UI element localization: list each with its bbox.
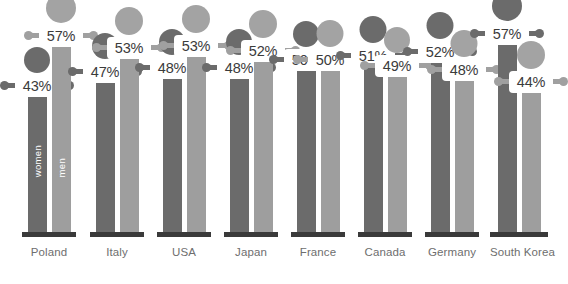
bar-women[interactable]: 48%: [230, 68, 249, 232]
bar-column: [522, 92, 541, 232]
bar-column: [96, 82, 115, 232]
group-baseline: [224, 232, 278, 237]
bar-column: [364, 66, 383, 232]
hand-left-dot: [92, 43, 101, 52]
value-callout: 44%: [509, 71, 553, 93]
bar-men[interactable]: 48%: [455, 70, 474, 232]
bar-column: [455, 80, 474, 232]
hand-left-dot: [226, 46, 235, 55]
head-circle: [360, 16, 387, 43]
bar-column: [52, 46, 71, 232]
bar-women[interactable]: 57%: [498, 34, 517, 232]
hand-left-dot: [360, 61, 369, 70]
bar-column: [187, 56, 206, 232]
group-baseline: [157, 232, 211, 237]
country-label: Canada: [358, 246, 412, 258]
country-label: Japan: [224, 246, 278, 258]
hand-left-dot: [68, 67, 77, 76]
group-baseline: [90, 232, 144, 237]
hand-left-dot: [0, 81, 9, 90]
head-circle: [182, 5, 210, 33]
hand-left-dot: [293, 55, 302, 64]
group-baseline: [291, 232, 345, 237]
country-label: Italy: [90, 246, 144, 258]
head-circle: [492, 0, 522, 21]
bar-women[interactable]: 50%: [297, 60, 316, 232]
country-label: Poland: [22, 246, 76, 258]
value-callout: 53%: [107, 37, 151, 59]
head-circle: [46, 0, 76, 23]
bar-column: [297, 70, 316, 232]
head-circle: [317, 20, 344, 47]
group-baseline: [490, 232, 548, 237]
series-legend-women: women: [32, 145, 43, 177]
bar-men[interactable]: 57%men: [52, 36, 71, 232]
bar-women[interactable]: 47%: [96, 72, 115, 232]
bar-column: [120, 58, 139, 232]
value-callout: 57%: [39, 25, 83, 47]
head-circle: [24, 47, 50, 73]
bar-men[interactable]: 49%: [388, 66, 407, 232]
group-baseline: [425, 232, 479, 237]
head-circle: [427, 12, 454, 39]
head-circle: [249, 10, 277, 38]
hand-right-dot: [535, 29, 544, 38]
percentage-label: 53%: [174, 35, 218, 57]
percentage-label: 48%: [442, 59, 486, 81]
bar-column: [431, 62, 450, 232]
bar-men[interactable]: 44%: [522, 82, 541, 232]
hand-left-dot: [159, 41, 168, 50]
hand-left-dot: [470, 29, 479, 38]
hand-left-dot: [403, 47, 412, 56]
hand-left-dot: [135, 63, 144, 72]
bar-men[interactable]: 52%: [254, 51, 273, 232]
percentage-label: 57%: [485, 23, 529, 45]
percentage-label: 49%: [375, 55, 419, 77]
bar-women[interactable]: 48%: [163, 68, 182, 232]
percentage-label: 57%: [39, 25, 83, 47]
percentage-label: 53%: [107, 37, 151, 59]
hand-left-dot: [494, 77, 503, 86]
bar-women[interactable]: 43%women: [28, 86, 47, 232]
bar-women[interactable]: 51%: [364, 56, 383, 232]
bar-men[interactable]: 53%: [187, 46, 206, 232]
value-callout: 53%: [174, 35, 218, 57]
bar-men[interactable]: 50%: [321, 60, 340, 232]
bar-column: [321, 70, 340, 232]
value-callout: 48%: [442, 59, 486, 81]
head-circle: [517, 41, 545, 69]
country-label: France: [291, 246, 345, 258]
value-callout: 57%: [485, 23, 529, 45]
group-baseline: [358, 232, 412, 237]
bar-column: [388, 76, 407, 232]
value-callout: 49%: [375, 55, 419, 77]
percentage-label: 44%: [509, 71, 553, 93]
hand-left-dot: [336, 51, 345, 60]
hand-left-dot: [202, 63, 211, 72]
bar-column: [254, 61, 273, 232]
hand-left-dot: [269, 55, 278, 64]
head-circle: [115, 7, 143, 35]
bar-column: [230, 78, 249, 232]
head-circle: [293, 21, 319, 47]
hand-left-dot: [427, 65, 436, 74]
hand-right-dot: [559, 77, 568, 86]
country-label: USA: [157, 246, 211, 258]
country-label: South Korea: [490, 246, 548, 258]
country-label: Germany: [425, 246, 479, 258]
series-legend-men: men: [56, 158, 67, 177]
group-baseline: [22, 232, 76, 237]
hand-left-dot: [24, 31, 33, 40]
bar-column: [163, 78, 182, 232]
bar-men[interactable]: 53%: [120, 48, 139, 232]
